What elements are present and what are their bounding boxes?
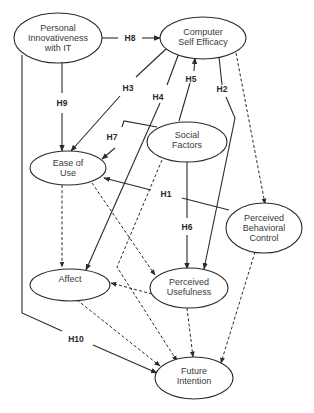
edges: H8 H9 H10 H3 H4 H5 (22, 33, 265, 373)
svg-text:Ease of: Ease of (53, 158, 84, 168)
svg-text:Social: Social (175, 130, 200, 140)
edge-h9: H9 (57, 62, 68, 151)
svg-text:Affect: Affect (59, 274, 82, 284)
edge-pbc-fi (221, 252, 255, 363)
edge-h10: H10 (22, 55, 157, 373)
svg-text:Behavioral: Behavioral (243, 223, 286, 233)
edge-h6: H6 (182, 160, 193, 269)
node-ease-of-use: Ease of Use (30, 151, 106, 185)
edge-pu-fi (187, 308, 193, 357)
svg-text:Perceived: Perceived (169, 277, 209, 287)
svg-text:Control: Control (249, 233, 278, 243)
svg-text:Self Efficacy: Self Efficacy (178, 37, 228, 47)
node-future-intention: Future Intention (155, 357, 233, 399)
edge-pu-affect (111, 283, 152, 294)
svg-text:Future: Future (181, 366, 207, 376)
svg-text:Perceived: Perceived (244, 213, 284, 223)
edge-h1: H1 (104, 178, 229, 210)
svg-text:Use: Use (60, 168, 76, 178)
edge-label-h5: H5 (186, 74, 197, 84)
svg-text:Usefulness: Usefulness (167, 287, 212, 297)
edge-label-h4: H4 (153, 92, 164, 102)
edge-h8: H8 (101, 33, 160, 43)
diagram-canvas: H8 H9 H10 H3 H4 H5 (0, 0, 314, 413)
node-perceived-behavioral-control: Perceived Behavioral Control (226, 203, 302, 253)
edge-label-h1: H1 (161, 189, 172, 199)
edge-label-h3: H3 (123, 83, 134, 93)
node-personal-innovativeness: Personal Innovativeness with IT (14, 13, 102, 63)
edge-label-h6: H6 (182, 222, 193, 232)
edge-label-h2: H2 (217, 84, 228, 94)
node-affect: Affect (30, 269, 110, 301)
node-perceived-usefulness: Perceived Usefulness (150, 268, 228, 308)
svg-text:Computer: Computer (183, 27, 223, 37)
node-social-factors: Social Factors (147, 122, 227, 162)
edge-cse-pbc (236, 53, 265, 204)
edge-eou-pu (92, 183, 155, 275)
edge-label-h10: H10 (68, 334, 84, 344)
svg-text:Factors: Factors (172, 140, 203, 150)
svg-text:Personal: Personal (40, 23, 76, 33)
edge-label-h8: H8 (125, 33, 136, 43)
structural-model-diagram: H8 H9 H10 H3 H4 H5 (0, 0, 314, 413)
edge-label-h7: H7 (107, 132, 118, 142)
node-computer-self-efficacy: Computer Self Efficacy (160, 17, 246, 59)
edge-label-h9: H9 (57, 98, 68, 108)
svg-text:Intention: Intention (177, 376, 212, 386)
edge-h5: H5 (179, 58, 197, 121)
svg-text:with IT: with IT (44, 43, 72, 53)
svg-text:Innovativeness: Innovativeness (28, 33, 89, 43)
